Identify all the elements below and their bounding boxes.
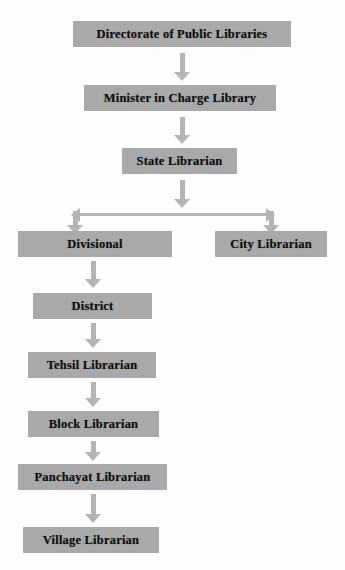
node-village-librarian: Village Librarian	[23, 527, 159, 553]
node-district-label: District	[72, 300, 114, 313]
node-minister: Minister in Charge Library	[84, 85, 276, 111]
edge-divisional-to-district	[85, 261, 101, 288]
edge-directorate-to-minister	[174, 53, 190, 81]
org-chart-canvas: Directorate of Public Libraries Minister…	[0, 0, 345, 570]
node-state-librarian-label: State Librarian	[137, 155, 223, 168]
arrow-shaft	[269, 211, 274, 225]
edge-district-to-tehsil	[85, 323, 101, 348]
arrow-head-icon	[85, 514, 101, 523]
node-village-librarian-label: Village Librarian	[43, 534, 139, 547]
branch-horizontal-bar	[80, 213, 266, 216]
node-divisional-label: Divisional	[67, 238, 123, 251]
arrow-head-icon	[85, 398, 101, 407]
arrow-shaft	[91, 261, 96, 279]
arrow-head-icon	[174, 135, 190, 144]
node-city-librarian: City Librarian	[215, 231, 327, 257]
node-divisional: Divisional	[18, 231, 172, 257]
arrow-shaft	[180, 53, 185, 72]
node-state-librarian: State Librarian	[122, 148, 237, 174]
edge-block-to-panchayat	[85, 441, 101, 461]
arrow-shaft	[91, 323, 96, 339]
arrow-shaft	[91, 494, 96, 514]
arrow-shaft	[91, 441, 96, 452]
node-minister-label: Minister in Charge Library	[104, 92, 257, 105]
arrow-head-icon	[85, 339, 101, 348]
arrow-head-icon	[85, 279, 101, 288]
node-city-librarian-label: City Librarian	[230, 238, 312, 251]
node-panchayat-librarian-label: Panchayat Librarian	[35, 471, 151, 484]
edge-state-to-branch	[174, 180, 190, 208]
arrow-shaft	[73, 211, 78, 225]
node-block-librarian-label: Block Librarian	[49, 418, 138, 431]
node-tehsil-librarian: Tehsil Librarian	[28, 352, 156, 378]
edge-minister-to-state	[174, 117, 190, 144]
node-directorate: Directorate of Public Libraries	[73, 21, 291, 47]
arrow-shaft	[180, 180, 185, 199]
arrow-head-icon	[85, 452, 101, 461]
node-directorate-label: Directorate of Public Libraries	[97, 28, 268, 41]
node-district: District	[33, 293, 152, 319]
edge-tehsil-to-block	[85, 382, 101, 407]
node-panchayat-librarian: Panchayat Librarian	[18, 464, 167, 490]
edge-panchayat-to-village	[85, 494, 101, 523]
arrow-shaft	[91, 382, 96, 398]
node-block-librarian: Block Librarian	[28, 411, 159, 437]
arrow-shaft	[180, 117, 185, 135]
node-tehsil-librarian-label: Tehsil Librarian	[47, 359, 138, 372]
arrow-head-icon	[174, 72, 190, 81]
